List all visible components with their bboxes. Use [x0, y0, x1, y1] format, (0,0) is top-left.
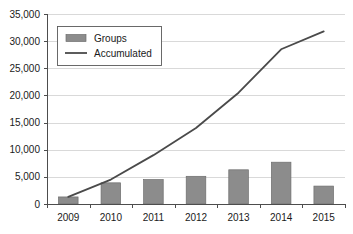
x-axis-tick-label-2010: 2010 [100, 212, 123, 223]
bar-2009 [58, 197, 78, 204]
legend-label-accumulated: Accumulated [94, 48, 152, 59]
bar-2011 [144, 180, 164, 204]
bar-2015 [314, 186, 334, 204]
legend-label-groups: Groups [94, 33, 127, 44]
chart-container: 05,00010,00015,00020,00025,00030,00035,0… [0, 0, 353, 234]
x-axis-labels-group: 2009201020112012201320142015 [57, 212, 335, 223]
bar-2014 [271, 162, 291, 204]
chart-legend: GroupsAccumulated [58, 27, 162, 66]
y-axis-tick-label: 15,000 [9, 117, 40, 128]
y-axis-tick-label: 10,000 [9, 144, 40, 155]
y-axis-tick-label: 30,000 [9, 36, 40, 47]
x-axis-tick-label-2015: 2015 [313, 212, 336, 223]
x-axis-tick-label-2009: 2009 [57, 212, 80, 223]
legend-swatch-groups [66, 35, 86, 42]
y-axis-tick-label: 25,000 [9, 63, 40, 74]
x-axis-tick-label-2012: 2012 [185, 212, 208, 223]
x-axis-tick-label-2011: 2011 [143, 212, 165, 223]
bar-2012 [186, 176, 206, 204]
bar-2010 [101, 183, 121, 204]
y-axis-tick-label: 0 [34, 199, 40, 210]
bar-2013 [229, 170, 249, 204]
y-axis-tick-label: 5,000 [15, 171, 40, 182]
y-axis-labels-group: 05,00010,00015,00020,00025,00030,00035,0… [9, 9, 47, 210]
x-axis-tick-label-2013: 2013 [227, 212, 250, 223]
y-axis-tick-label: 35,000 [9, 9, 40, 20]
bar-series-groups [58, 162, 333, 204]
y-axis-tick-label: 20,000 [9, 90, 40, 101]
combo-chart: 05,00010,00015,00020,00025,00030,00035,0… [0, 0, 353, 234]
x-axis-tick-label-2014: 2014 [270, 212, 293, 223]
